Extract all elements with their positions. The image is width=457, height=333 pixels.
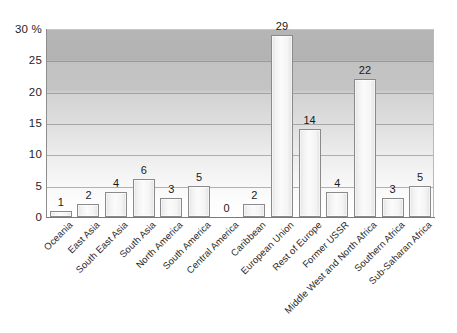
- y-tick-label: 25: [29, 54, 42, 66]
- bar-value-label: 22: [359, 64, 371, 76]
- bar-group[interactable]: 1: [50, 29, 72, 217]
- bar-value-label: 5: [196, 171, 202, 183]
- bar[interactable]: [77, 204, 99, 217]
- bar[interactable]: [133, 179, 155, 217]
- bar[interactable]: [188, 186, 210, 217]
- bar-group[interactable]: 3: [160, 29, 182, 217]
- bar-value-label: 2: [85, 189, 91, 201]
- bar-value-label: 4: [334, 177, 340, 189]
- y-tick-label: 30 %: [15, 23, 42, 35]
- bar-value-label: 3: [389, 183, 395, 195]
- x-axis-line: [46, 217, 435, 218]
- bar-value-label: 14: [303, 114, 315, 126]
- bar-group[interactable]: 29: [271, 29, 293, 217]
- y-axis: 051015202530 %: [0, 0, 45, 333]
- bar[interactable]: [105, 192, 127, 217]
- bar[interactable]: [409, 186, 431, 217]
- bar-group[interactable]: 14: [299, 29, 321, 217]
- bar-group[interactable]: 4: [326, 29, 348, 217]
- bar-group[interactable]: 5: [409, 29, 431, 217]
- bar[interactable]: [354, 79, 376, 217]
- bar[interactable]: [160, 198, 182, 217]
- bar[interactable]: [50, 211, 72, 217]
- bar-chart: 051015202530 % 12463502291442235 Oceania…: [0, 0, 457, 333]
- y-tick-label: 5: [35, 180, 42, 192]
- bar-group[interactable]: 5: [188, 29, 210, 217]
- bar-value-label: 0: [224, 202, 230, 214]
- bar[interactable]: [326, 192, 348, 217]
- bar-value-label: 5: [417, 171, 423, 183]
- bar-group[interactable]: 0: [216, 29, 238, 217]
- bar-group[interactable]: 2: [77, 29, 99, 217]
- bar[interactable]: [299, 129, 321, 217]
- bar[interactable]: [271, 35, 293, 217]
- bar-value-label: 3: [168, 183, 174, 195]
- y-tick-label: 15: [29, 117, 42, 129]
- bar-value-label: 4: [113, 177, 119, 189]
- y-tick-label: 0: [35, 211, 42, 223]
- bar-group[interactable]: 4: [105, 29, 127, 217]
- bar[interactable]: [243, 204, 265, 217]
- bar-group[interactable]: 2: [243, 29, 265, 217]
- bar-value-label: 1: [58, 196, 64, 208]
- bar-group[interactable]: 6: [133, 29, 155, 217]
- y-tick-label: 10: [29, 148, 42, 160]
- bar-value-label: 29: [276, 20, 288, 32]
- bar-group[interactable]: 22: [354, 29, 376, 217]
- bars-layer: 12463502291442235: [47, 29, 434, 217]
- bar-group[interactable]: 3: [382, 29, 404, 217]
- x-axis-labels: OceaniaEast AsiaSouth East AsiaSouth Asi…: [47, 219, 457, 333]
- bar-value-label: 6: [141, 164, 147, 176]
- y-tick-label: 20: [29, 86, 42, 98]
- bar-value-label: 2: [251, 189, 257, 201]
- bar[interactable]: [382, 198, 404, 217]
